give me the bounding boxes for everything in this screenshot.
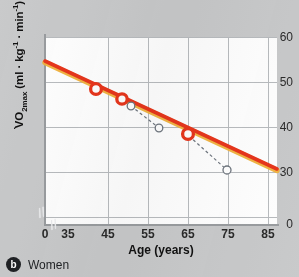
x-tick-label: 55 [133,228,163,240]
x-tick-label: 45 [93,228,123,240]
y-tick-label: 60 [255,31,299,43]
y-axis-title-exponent-1: -1 [11,42,20,49]
y-axis-title: ̇VO2max (ml · kg-1 · min-1) [11,0,28,165]
gridline-vertical [228,37,229,224]
y-axis-title-exponent-2: -1 [11,5,20,12]
y-tick-label: 50 [255,76,299,88]
y-tick-label: 40 [255,121,299,133]
gridline-vertical [108,37,109,224]
x-tick-label: 75 [213,228,243,240]
gridline-horizontal [45,82,277,83]
x-tick-label: 85 [253,228,283,240]
gridline-horizontal [45,172,277,173]
y-axis-line [44,34,46,226]
x-tick-label: 65 [173,228,203,240]
gridline-vertical [188,37,189,224]
y-tick-label: 30 [255,166,299,178]
x-tick-label: 35 [53,228,83,240]
x-axis-title: Age (years) [45,243,277,257]
caption-badge-icon: b [6,257,21,272]
gridline-horizontal [45,37,277,38]
caption-label: Women [28,258,69,272]
y-axis-title-units-close: ) [13,1,25,5]
gridline-horizontal [45,127,277,128]
figure-panel: // // 60 50 40 30 0 0 35 45 55 65 75 85 … [0,0,299,277]
y-axis-title-units-mid: · min [13,12,25,42]
y-axis-title-main: VO [13,112,25,128]
y-axis-title-units-open: (ml · kg [13,49,25,92]
y-axis-title-subscript: 2max [20,92,29,112]
figure-caption: b Women [6,257,69,272]
gridline-horizontal [45,217,277,218]
x-axis-line [44,224,279,226]
gridline-vertical [148,37,149,224]
chart-plot-area [45,37,277,224]
